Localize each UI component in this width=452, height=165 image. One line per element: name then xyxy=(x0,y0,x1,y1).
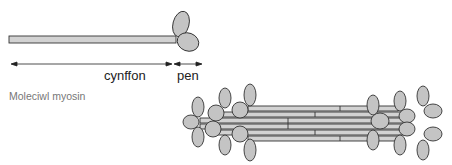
thick-filament xyxy=(183,84,442,161)
head-label: pen xyxy=(177,68,199,83)
caption-myosin-molecule: Moleciwl myosin xyxy=(9,90,85,102)
myosin-diagram xyxy=(0,0,452,165)
tail-label: cynffon xyxy=(104,68,146,83)
myosin-tail-rod xyxy=(9,36,176,43)
single-myosin-molecule xyxy=(9,9,201,54)
dimension-arrows xyxy=(11,62,202,66)
